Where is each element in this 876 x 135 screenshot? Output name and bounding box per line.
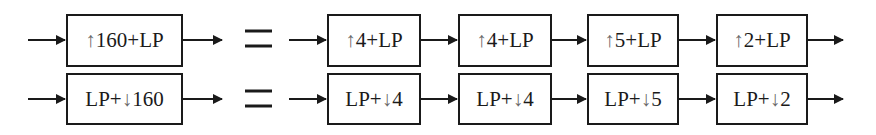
box-label: 4+LP: [487, 28, 534, 53]
up-arrow-icon: ↑: [604, 28, 615, 53]
box-label: 4+LP: [356, 28, 403, 53]
box-label: LP+: [476, 87, 512, 112]
upsample-5-lp-box: ↑5+LP: [587, 14, 679, 67]
box-label: 160: [132, 87, 164, 112]
box-label: 2: [780, 87, 791, 112]
lp-downsample-160-box: LP+↓160: [66, 73, 183, 125]
upsample-2-lp-box: ↑2+LP: [716, 14, 808, 67]
down-arrow-icon: ↓: [122, 87, 133, 112]
up-arrow-icon: ↑: [85, 28, 96, 53]
upsample-4-lp-box-2: ↑4+LP: [458, 14, 552, 67]
box-label: 5: [651, 87, 662, 112]
box-label: 160+LP: [96, 28, 164, 53]
down-arrow-icon: ↓: [382, 87, 393, 112]
equals-signs: [245, 31, 272, 106]
down-arrow-icon: ↓: [513, 87, 524, 112]
up-arrow-icon: ↑: [345, 28, 356, 53]
lp-downsample-2-box: LP+↓2: [716, 73, 808, 125]
down-arrow-icon: ↓: [770, 87, 781, 112]
down-arrow-icon: ↓: [641, 87, 652, 112]
box-label: LP+: [345, 87, 381, 112]
up-arrow-icon: ↑: [476, 28, 487, 53]
box-label: LP+: [604, 87, 640, 112]
lp-downsample-4-box-2: LP+↓4: [458, 73, 552, 125]
upsample-4-lp-box-1: ↑4+LP: [327, 14, 421, 67]
box-label: LP+: [733, 87, 769, 112]
lp-downsample-4-box-1: LP+↓4: [327, 73, 421, 125]
box-label: 2+LP: [744, 28, 791, 53]
up-arrow-icon: ↑: [733, 28, 744, 53]
lp-downsample-5-box: LP+↓5: [587, 73, 679, 125]
box-label: 4: [392, 87, 403, 112]
box-label: 4: [523, 87, 534, 112]
upsample-160-lp-box: ↑160+LP: [66, 14, 183, 67]
box-label: 5+LP: [615, 28, 662, 53]
box-label: LP+: [85, 87, 121, 112]
